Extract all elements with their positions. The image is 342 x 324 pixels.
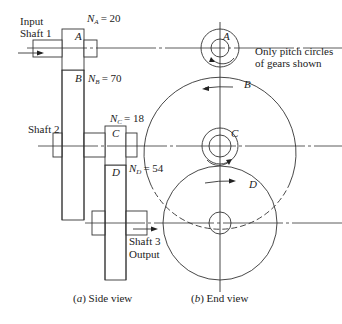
end-gear-d-letter: D [248, 178, 257, 190]
end-gear-c-letter: C [231, 127, 239, 139]
gear-b-arrow-head [202, 86, 209, 91]
end-gear-b-letter: B [244, 78, 251, 90]
side-view-caption: (a) Side view [73, 292, 132, 305]
nb-subscript: B [95, 78, 100, 86]
gear-d-letter: D [111, 166, 120, 178]
gear-d-side [105, 165, 126, 280]
nc-value: = 18 [124, 112, 144, 124]
side-caption-text: ) Side view [82, 292, 132, 305]
gear-b-side [62, 70, 84, 220]
nd-subscript: D [135, 168, 141, 176]
shaft1-hub-right [84, 40, 97, 57]
gear-d-rotation-arrow [205, 181, 233, 183]
gear-a-letter: A [74, 30, 82, 42]
shaft2-hub-left [53, 133, 62, 157]
note-line1: Only pitch circles [255, 45, 333, 57]
note-line2: of gears shown [255, 57, 322, 69]
output-label-line2: Output [129, 248, 160, 260]
nc-subscript: C [117, 118, 122, 126]
output-label-line1: Shaft 3 [129, 235, 161, 247]
input-label-line1: Input [20, 15, 43, 27]
gear-c-teeth-label: NC= 18 [109, 112, 144, 126]
nd-value: = 54 [143, 162, 163, 174]
gear-c-arrow-head [226, 159, 232, 165]
na-subscript: A [93, 18, 99, 26]
gear-d-arrow-head [229, 179, 236, 184]
input-label-line2: Shaft 1 [20, 27, 51, 39]
gear-a-teeth-label: NA= 20 [86, 12, 121, 26]
gear-b-rotation-arrow [205, 87, 233, 88]
nb-value: = 70 [102, 72, 122, 84]
shaft2-hub-mid [84, 133, 105, 157]
na-value: = 20 [101, 12, 121, 24]
output-arrow-head [151, 227, 158, 232]
gear-d-teeth-label: ND= 54 [128, 162, 164, 176]
gear-b-teeth-label: NB= 70 [87, 72, 122, 86]
gear-c-letter: C [112, 127, 120, 139]
end-caption-text: ) End view [200, 292, 248, 305]
end-view-caption: (b) End view [191, 292, 248, 305]
shaft2-label: Shaft 2 [28, 123, 59, 135]
end-gear-a-letter: A [222, 30, 230, 42]
gear-a-rotation-arrow [213, 58, 234, 64]
gear-train-diagram: Input Shaft 1 A NA= 20 B NB= 70 Shaft 2 … [0, 0, 342, 324]
shaft2-hub-right [126, 133, 137, 157]
gear-b-letter: B [75, 72, 82, 84]
gear-a-arrow-head [209, 57, 215, 62]
